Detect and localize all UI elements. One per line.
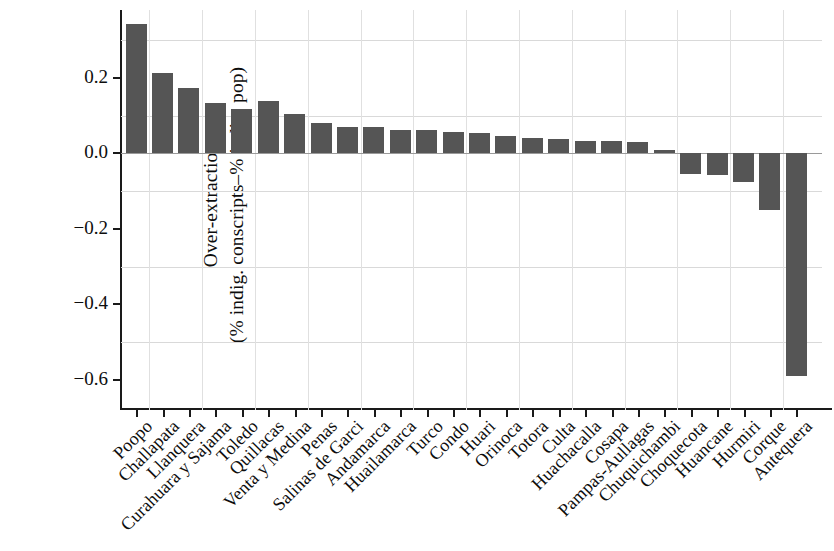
- gridline-vertical: [677, 10, 678, 410]
- plot-area: 0.20.0−0.2−0.4−0.6: [112, 10, 822, 410]
- bar: [390, 130, 411, 154]
- y-axis-tick-label: −0.2: [58, 217, 108, 239]
- gridline-vertical: [308, 10, 309, 410]
- x-axis-labels: PoopoChallapataLlanqueraCurahuara y Saja…: [112, 410, 834, 551]
- y-axis-tick: [113, 152, 120, 154]
- bar: [733, 153, 754, 182]
- bar: [205, 103, 226, 154]
- bar: [363, 127, 384, 154]
- plot-canvas: [121, 10, 822, 410]
- y-axis-tick-label: 0.2: [58, 66, 108, 88]
- y-axis-tick: [113, 77, 120, 79]
- bar: [258, 101, 279, 153]
- gridline-horizontal: [121, 342, 822, 343]
- gridline-vertical: [466, 10, 467, 410]
- y-axis-title: Over-extraction (% indig. conscripts–% i…: [0, 0, 62, 410]
- bar: [231, 109, 252, 154]
- bar: [337, 127, 358, 154]
- bar: [416, 130, 437, 153]
- gridline-vertical: [202, 10, 203, 410]
- bar: [548, 139, 569, 153]
- bar: [284, 114, 305, 154]
- bar: [786, 153, 807, 376]
- gridline-vertical: [255, 10, 256, 410]
- chart-figure: Over-extraction (% indig. conscripts–% i…: [0, 0, 834, 551]
- bar: [126, 24, 147, 153]
- y-axis-tick-label: 0.0: [58, 141, 108, 163]
- bar: [495, 136, 516, 154]
- gridline-horizontal: [121, 191, 822, 192]
- gridline-vertical: [572, 10, 573, 410]
- gridline-vertical: [730, 10, 731, 410]
- bar: [759, 153, 780, 210]
- gridline-horizontal: [121, 267, 822, 268]
- gridline-vertical: [625, 10, 626, 410]
- gridline-horizontal: [121, 40, 822, 41]
- y-axis-tick: [113, 379, 120, 381]
- bar: [601, 141, 622, 153]
- bar: [178, 88, 199, 153]
- bar: [627, 142, 648, 153]
- gridline-vertical: [413, 10, 414, 410]
- y-axis-tick: [113, 303, 120, 305]
- bar: [680, 153, 701, 174]
- y-axis-tick-label: −0.6: [58, 368, 108, 390]
- bar: [311, 123, 332, 154]
- y-axis-tick-label: −0.4: [58, 292, 108, 314]
- bar: [522, 138, 543, 154]
- bar: [654, 150, 675, 153]
- bar: [443, 132, 464, 154]
- bar: [469, 133, 490, 153]
- bar: [575, 141, 596, 154]
- gridline-vertical: [361, 10, 362, 410]
- gridline-vertical: [519, 10, 520, 410]
- bar: [707, 153, 728, 175]
- y-axis-tick: [113, 228, 120, 230]
- bar: [152, 73, 173, 153]
- gridline-vertical: [149, 10, 150, 410]
- gridline-vertical: [783, 10, 784, 410]
- gridline-horizontal: [121, 116, 822, 117]
